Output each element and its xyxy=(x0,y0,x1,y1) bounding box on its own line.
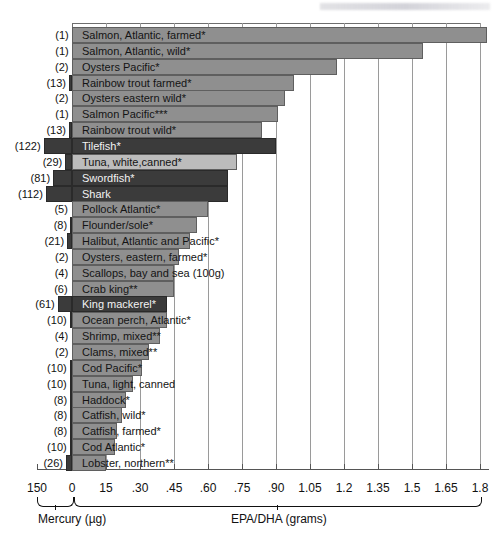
mercury-epa-dha-bar-chart: 150015.30.45.60.75.901.051.21.351.51.651… xyxy=(0,0,504,538)
plot-area: 150015.30.45.60.75.901.051.21.351.51.651… xyxy=(0,0,504,538)
epa-dha-bar xyxy=(72,376,133,392)
mercury-bar xyxy=(53,170,72,186)
epa-dha-bar xyxy=(72,75,294,91)
epa-dha-bar xyxy=(72,43,423,59)
epa-dha-bar xyxy=(72,392,126,408)
epa-dha-bar xyxy=(72,281,174,297)
epa-dha-bar xyxy=(72,59,337,75)
epa-dha-bar xyxy=(72,217,197,233)
mercury-axis-label: Mercury (µg) xyxy=(38,512,106,526)
epa-axis-brace xyxy=(74,497,482,507)
epa-dha-bar xyxy=(72,138,276,154)
mercury-bar xyxy=(44,138,72,154)
epa-dha-bar xyxy=(72,106,278,122)
epa-dha-bar xyxy=(72,27,487,43)
epa-dha-bar xyxy=(72,407,122,423)
x-axis-tick-label: 1.8 xyxy=(455,481,504,495)
mercury-axis-brace-tip xyxy=(55,505,56,510)
epa-dha-bar xyxy=(72,90,285,106)
mercury-count-label: (26) xyxy=(43,454,63,472)
epa-dha-bar xyxy=(72,423,117,439)
epa-dha-bar xyxy=(72,296,167,312)
epa-dha-bar xyxy=(72,201,208,217)
epa-dha-bar xyxy=(72,154,237,170)
chart-row: (26)Lobster, northern** xyxy=(0,454,504,472)
mercury-bar xyxy=(58,296,72,312)
epa-axis-brace-tip xyxy=(277,505,278,510)
mercury-bar xyxy=(46,186,72,202)
epa-dha-bar xyxy=(72,439,115,455)
epa-dha-bar xyxy=(72,122,262,138)
mercury-bar xyxy=(65,154,72,170)
epa-dha-bar xyxy=(72,186,228,202)
epa-dha-bar xyxy=(72,233,190,249)
epa-dha-bar xyxy=(72,360,142,376)
epa-dha-bar xyxy=(72,344,149,360)
epa-dha-bar xyxy=(72,265,174,281)
epa-axis-label: EPA/DHA (grams) xyxy=(231,512,327,526)
epa-dha-bar xyxy=(72,170,228,186)
epa-dha-bar xyxy=(72,312,167,328)
epa-dha-bar xyxy=(72,455,106,471)
epa-dha-bar xyxy=(72,328,160,344)
epa-dha-bar xyxy=(72,249,179,265)
mercury-axis-brace xyxy=(37,497,74,507)
